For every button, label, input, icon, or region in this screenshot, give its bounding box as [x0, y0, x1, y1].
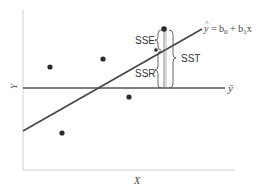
data-point	[154, 48, 158, 52]
x-axis-label: X	[133, 175, 141, 186]
regression-line	[23, 29, 202, 131]
regression-diagram: SSE SSR SST ^ y = b0 + b1x ȳ Y X	[0, 0, 263, 191]
eq-plus-b1: + b	[228, 23, 244, 34]
eq-x: x	[247, 23, 252, 34]
data-point	[161, 26, 167, 32]
sst-brace	[169, 30, 176, 88]
equation-text: y = b0 + b1x	[203, 23, 252, 36]
sse-label: SSE	[135, 35, 155, 46]
data-point	[126, 94, 131, 99]
sst-label: SST	[181, 53, 200, 64]
mean-label: ȳ	[227, 82, 234, 94]
regression-equation: ^ y = b0 + b1x	[203, 19, 252, 36]
ssr-brace	[155, 51, 161, 88]
eq-b0-prefix: = b	[208, 23, 224, 34]
data-point	[100, 56, 105, 61]
y-axis-label: Y	[9, 83, 19, 89]
ssr-label: SSR	[135, 68, 156, 79]
data-point	[59, 130, 64, 135]
data-point	[47, 64, 52, 69]
sse-brace	[155, 30, 161, 50]
